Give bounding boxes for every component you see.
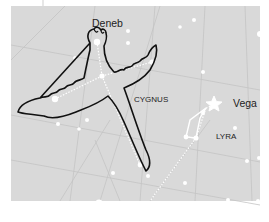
star-chart: Deneb CYGNUS Vega LYRA <box>0 0 269 222</box>
label-vega: Vega <box>233 97 257 109</box>
label-deneb: Deneb <box>92 17 123 29</box>
label-lyra: LYRA <box>216 132 237 141</box>
label-cygnus: CYGNUS <box>134 95 168 104</box>
